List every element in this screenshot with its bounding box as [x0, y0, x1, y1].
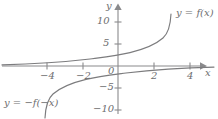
y-tick-label-10: 10: [97, 16, 110, 26]
y-tick-label-neg-10: −10: [93, 104, 114, 114]
y-axis-label: y: [106, 1, 112, 11]
y-tick-label-5: 5: [103, 38, 109, 48]
curve-label-f-of-x: y = f(x): [176, 8, 214, 18]
x-tick-label-4: 4: [187, 71, 193, 81]
y-axis-arrow: [114, 4, 121, 11]
x-tick-label-neg-4: −4: [40, 71, 55, 81]
function-graph-figure: y x 0 10 5 −5 −10 −4 −2 2 4 y = f(x) y =…: [0, 0, 218, 119]
x-axis-label: x: [205, 68, 211, 78]
y-tick-label-neg-5: −5: [99, 82, 114, 92]
curve-y-equals-f-of-x: [2, 14, 171, 65]
curve-label-neg-f-of-neg-x: y = −f(−x): [4, 98, 58, 108]
x-tick-label-2: 2: [151, 71, 157, 81]
origin-label: 0: [108, 66, 114, 76]
x-tick-label-neg-2: −2: [76, 71, 91, 81]
